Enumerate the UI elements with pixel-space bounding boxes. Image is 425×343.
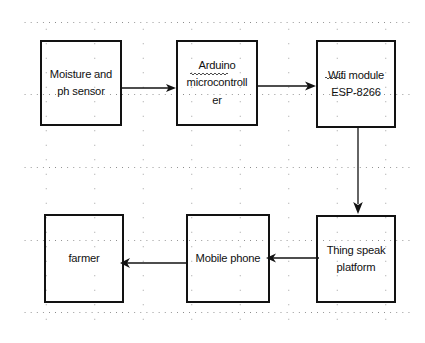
arrow-mobile-to-farmer [120, 253, 188, 273]
block-label-mobile: Mobile phone [192, 250, 264, 267]
block-arduino-microcontroller[interactable]: Arduino microcontroll er [176, 40, 258, 126]
block-thingspeak-platform[interactable]: Thing speak platform [316, 215, 396, 303]
arrow-arduino-to-wifi [256, 76, 320, 96]
block-label-sensor: Moisture and ph sensor [46, 66, 116, 100]
grid-major-ruling-1 [22, 22, 412, 23]
block-label-arduino: Arduino microcontroll er [182, 57, 252, 108]
block-label-wifi: Wifi module ESP-8266 [322, 67, 390, 101]
block-moisture-ph-sensor[interactable]: Moisture and ph sensor [40, 40, 122, 126]
arrow-wifi-to-thingspeak [349, 126, 369, 218]
block-wifi-module[interactable]: Wifi module ESP-8266 [316, 40, 396, 128]
diagram-canvas: Moisture and ph sensor Arduino microcont… [0, 0, 425, 343]
block-label-farmer: farmer [50, 250, 118, 267]
block-label-thingspeak: Thing speak platform [322, 242, 390, 276]
grid-major-ruling-3 [22, 167, 412, 168]
block-farmer[interactable]: farmer [44, 214, 124, 303]
grid-major-ruling-5 [22, 312, 412, 313]
arrow-sensor-to-arduino [120, 78, 180, 98]
block-mobile-phone[interactable]: Mobile phone [186, 214, 270, 303]
arrow-thingspeak-to-mobile [266, 248, 320, 268]
